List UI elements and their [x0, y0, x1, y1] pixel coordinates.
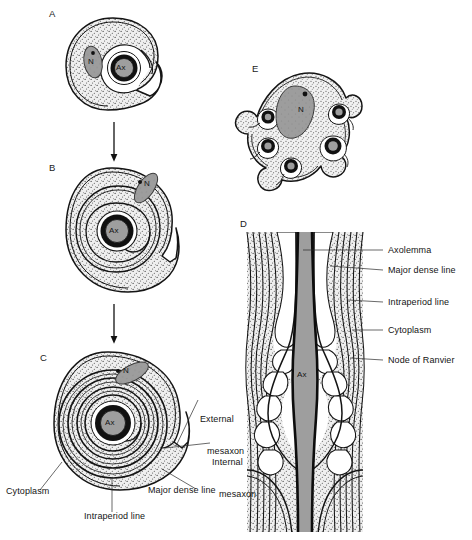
panel-c-axon-label: Ax	[105, 418, 115, 429]
callout-intraperiod-line-d: Intraperiod line	[388, 297, 449, 308]
panel-letter-b: B	[49, 162, 56, 173]
panel-letter-a: A	[49, 8, 56, 19]
panel-letter-d: D	[240, 218, 247, 229]
panel-c-artwork	[54, 352, 189, 490]
callout-cytoplasm-c: Cytoplasm	[6, 486, 49, 497]
callout-intraperiod-line-c: Intraperiod line	[84, 511, 145, 522]
panel-b-nucleus-label: N	[144, 179, 150, 190]
panel-a-artwork	[66, 18, 162, 110]
callout-external-mesaxon-line1: External	[200, 414, 244, 425]
callout-internal-mesaxon-line2: mesaxon	[212, 489, 256, 500]
callout-major-dense-line-d: Major dense line	[388, 265, 456, 276]
callout-major-dense-line-c: Major dense line	[148, 485, 216, 496]
figure-canvas: A B C D E N Ax N Ax N Ax N Ax External m…	[0, 0, 472, 540]
panel-c-nucleus-label: N	[123, 366, 129, 377]
panel-letter-e: E	[252, 63, 259, 74]
panel-b-axon-label: Ax	[109, 226, 119, 237]
panel-e-artwork	[236, 73, 362, 190]
panel-a-axon-label: Ax	[116, 63, 126, 74]
panel-a-nucleus-label: N	[88, 57, 94, 68]
panel-d-artwork	[246, 232, 365, 534]
callout-internal-mesaxon: Internal mesaxon	[212, 436, 256, 510]
callout-node-of-ranvier: Node of Ranvier	[388, 355, 455, 366]
callout-cytoplasm-d: Cytoplasm	[388, 325, 431, 336]
callout-axolemma: Axolemma	[388, 245, 431, 256]
panel-letter-c: C	[40, 352, 47, 363]
callout-internal-mesaxon-line1: Internal	[212, 457, 256, 468]
panel-b-artwork	[66, 168, 179, 292]
panel-d-axon-label: Ax	[297, 370, 307, 381]
panel-e-nucleus-label: N	[298, 105, 304, 116]
